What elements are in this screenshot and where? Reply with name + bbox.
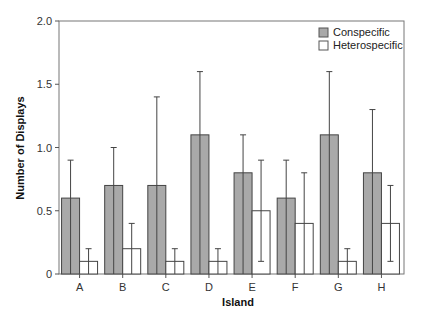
y-axis: 00.51.01.52.0: [37, 15, 59, 280]
y-tick-label: 1.5: [37, 78, 52, 90]
legend-label-conspecific: Conspecific: [333, 26, 390, 38]
y-tick-label: 2.0: [37, 15, 52, 27]
legend-label-heterospecific: Heterospecific: [333, 39, 403, 51]
y-tick-label: 0.5: [37, 205, 52, 217]
x-tick-label: H: [377, 281, 385, 293]
bar-series: [62, 72, 400, 274]
x-tick-label: B: [119, 281, 126, 293]
x-axis: ABCDEFGH: [76, 274, 386, 293]
y-tick-label: 1.0: [37, 142, 52, 154]
y-axis-title: Number of Displays: [14, 96, 26, 199]
legend-swatch-conspecific: [319, 28, 328, 37]
x-tick-label: D: [205, 281, 213, 293]
x-tick-label: F: [292, 281, 299, 293]
legend: Conspecific Heterospecific: [319, 26, 403, 51]
x-tick-label: G: [334, 281, 343, 293]
x-axis-title: Island: [222, 296, 254, 308]
x-tick-label: A: [76, 281, 84, 293]
bar-chart: 00.51.01.52.0 ABCDEFGH Island Number of …: [0, 0, 421, 321]
x-tick-label: C: [162, 281, 170, 293]
legend-swatch-heterospecific: [319, 41, 328, 50]
x-tick-label: E: [248, 281, 255, 293]
y-tick-label: 0: [46, 268, 52, 280]
